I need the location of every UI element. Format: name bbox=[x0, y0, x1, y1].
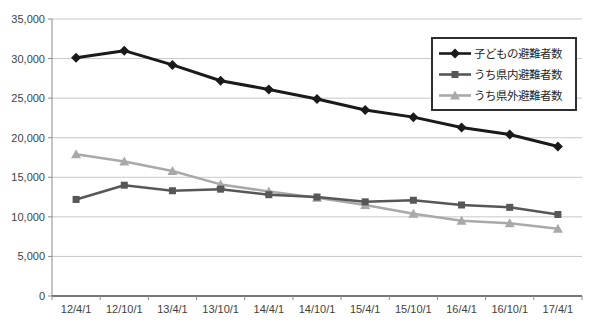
x-axis-labels: 12/4/112/10/113/4/113/10/114/4/114/10/11… bbox=[61, 303, 573, 315]
svg-text:35,000: 35,000 bbox=[11, 13, 45, 25]
legend-label-children-total: 子どもの避難者数 bbox=[474, 45, 562, 61]
svg-text:14/4/1: 14/4/1 bbox=[254, 303, 285, 315]
legend-diamond-line-icon bbox=[438, 47, 472, 60]
svg-text:15/4/1: 15/4/1 bbox=[350, 303, 381, 315]
svg-text:0: 0 bbox=[39, 290, 45, 302]
svg-text:5,000: 5,000 bbox=[17, 250, 45, 262]
svg-text:20,000: 20,000 bbox=[11, 132, 45, 144]
y-axis-ticks bbox=[48, 19, 52, 296]
svg-text:14/10/1: 14/10/1 bbox=[299, 303, 336, 315]
legend-label-outside-prefecture: うち県外避難者数 bbox=[474, 87, 562, 103]
svg-text:10,000: 10,000 bbox=[11, 211, 45, 223]
svg-text:30,000: 30,000 bbox=[11, 53, 45, 65]
svg-text:15,000: 15,000 bbox=[11, 171, 45, 183]
legend: 子どもの避難者数 うち県内避難者数 うち県外避難者数 bbox=[431, 37, 577, 111]
legend-triangle-line-icon bbox=[438, 89, 472, 102]
svg-text:12/4/1: 12/4/1 bbox=[61, 303, 92, 315]
svg-text:13/4/1: 13/4/1 bbox=[157, 303, 188, 315]
svg-text:15/10/1: 15/10/1 bbox=[395, 303, 432, 315]
svg-text:16/4/1: 16/4/1 bbox=[446, 303, 477, 315]
legend-item-inside-prefecture: うち県内避難者数 bbox=[438, 65, 569, 83]
y-axis-labels: 05,00010,00015,00020,00025,00030,00035,0… bbox=[11, 13, 45, 302]
series-1 bbox=[73, 182, 562, 218]
evacuee-line-chart: 05,00010,00015,00020,00025,00030,00035,0… bbox=[0, 0, 597, 331]
svg-text:17/4/1: 17/4/1 bbox=[543, 303, 574, 315]
legend-item-outside-prefecture: うち県外避難者数 bbox=[438, 86, 569, 104]
legend-item-children-total: 子どもの避難者数 bbox=[438, 44, 569, 62]
svg-text:25,000: 25,000 bbox=[11, 92, 45, 104]
legend-label-inside-prefecture: うち県内避難者数 bbox=[474, 66, 562, 82]
svg-text:16/10/1: 16/10/1 bbox=[491, 303, 528, 315]
series-2 bbox=[71, 149, 563, 232]
legend-square-line-icon bbox=[438, 68, 472, 81]
svg-text:12/10/1: 12/10/1 bbox=[106, 303, 143, 315]
svg-text:13/10/1: 13/10/1 bbox=[202, 303, 239, 315]
